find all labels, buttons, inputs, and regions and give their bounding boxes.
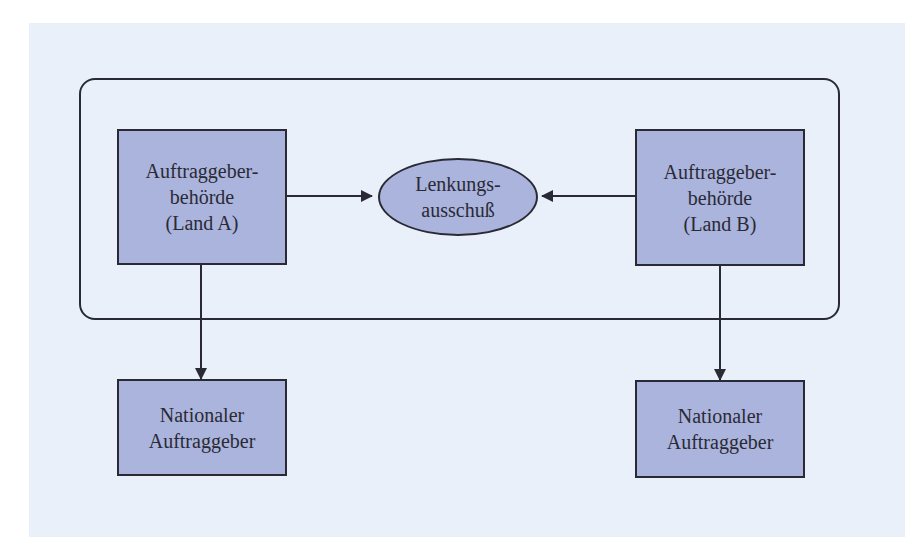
node-text: Lenkungs- bbox=[415, 171, 501, 197]
node-authority-land-b: Auftraggeber- behörde (Land B) bbox=[635, 129, 805, 266]
node-text: behörde bbox=[688, 185, 752, 211]
node-text: (Land B) bbox=[684, 211, 757, 237]
node-steering-committee: Lenkungs- ausschuß bbox=[378, 158, 538, 236]
node-text: Nationaler bbox=[160, 402, 244, 428]
node-text: Auftraggeber- bbox=[664, 159, 777, 185]
node-text: Auftraggeber- bbox=[146, 158, 259, 184]
node-text: Auftraggeber bbox=[667, 429, 774, 455]
node-text: behörde bbox=[170, 184, 234, 210]
node-text: (Land A) bbox=[166, 210, 239, 236]
node-text: Auftraggeber bbox=[149, 428, 256, 454]
node-national-client-a: Nationaler Auftraggeber bbox=[117, 379, 287, 476]
node-text: ausschuß bbox=[421, 197, 494, 223]
node-authority-land-a: Auftraggeber- behörde (Land A) bbox=[117, 129, 287, 265]
node-national-client-b: Nationaler Auftraggeber bbox=[635, 380, 805, 478]
node-text: Nationaler bbox=[678, 403, 762, 429]
